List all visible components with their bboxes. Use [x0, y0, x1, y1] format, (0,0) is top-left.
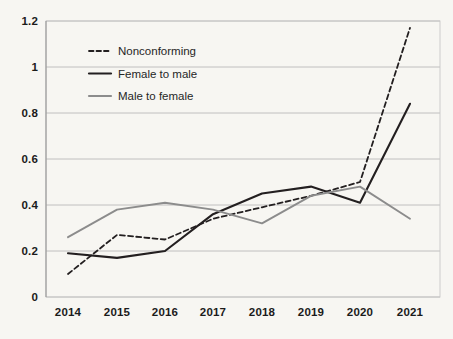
x-tick-label: 2021 — [397, 306, 424, 318]
x-tick-label: 2020 — [347, 306, 373, 318]
x-tick-label: 2017 — [200, 306, 226, 318]
legend-label-nonconforming: Nonconforming — [118, 45, 196, 57]
y-tick-label: 0.6 — [21, 153, 38, 165]
line-chart: 1.210.80.60.40.20 2014201520162017201820… — [0, 0, 453, 339]
y-tick-label: 0.2 — [21, 245, 38, 257]
x-tick-label: 2016 — [152, 306, 178, 318]
y-tick-label: 0.8 — [21, 107, 38, 119]
x-tick-label: 2015 — [104, 306, 131, 318]
y-tick-label: 1 — [31, 61, 38, 73]
x-tick-label: 2014 — [55, 306, 82, 318]
y-tick-label: 1.2 — [21, 15, 38, 27]
legend-label-female-to-male: Female to male — [118, 68, 197, 80]
x-tick-label: 2018 — [249, 306, 276, 318]
chart-background — [0, 0, 453, 339]
x-tick-label: 2019 — [298, 306, 324, 318]
y-tick-label: 0.4 — [21, 199, 38, 211]
chart-container: 1.210.80.60.40.20 2014201520162017201820… — [0, 0, 453, 339]
legend-label-male-to-female: Male to female — [118, 90, 193, 102]
y-tick-label: 0 — [31, 291, 38, 303]
